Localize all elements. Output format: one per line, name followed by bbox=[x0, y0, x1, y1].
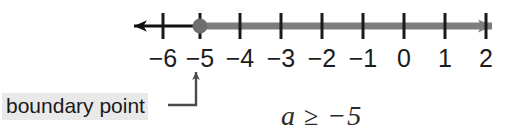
tick-label-1: 1 bbox=[423, 46, 467, 71]
boundary-point-annotation-label: boundary point bbox=[2, 93, 148, 120]
tick-label-2: 2 bbox=[464, 46, 508, 71]
tick-label--4: −4 bbox=[218, 46, 262, 71]
boundary-point-dot bbox=[193, 19, 208, 34]
tick-label--2: −2 bbox=[300, 46, 344, 71]
tick-label--1: −1 bbox=[341, 46, 385, 71]
leader-line bbox=[168, 72, 196, 105]
inequality-operator: ≥ bbox=[304, 102, 319, 131]
tick-label-0: 0 bbox=[382, 46, 426, 71]
inequality-variable: a bbox=[281, 100, 296, 131]
inequality-value: −5 bbox=[327, 100, 362, 131]
inequality-expression: a ≥ −5 bbox=[281, 100, 362, 132]
number-line-figure: −6 −5 −4 −3 −2 −1 0 1 2 boundary point a… bbox=[0, 0, 525, 137]
tick-label--5: −5 bbox=[178, 46, 222, 71]
tick-label--3: −3 bbox=[259, 46, 303, 71]
